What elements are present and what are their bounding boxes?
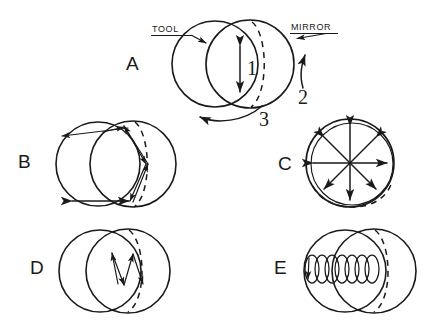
panel-a-number-3: 3	[259, 108, 269, 130]
panel-c: C	[278, 119, 394, 207]
panel-d-tool-circle	[59, 230, 141, 312]
panel-b: B	[18, 121, 176, 207]
panel-d-w-seg-3	[124, 254, 133, 285]
panel-b-letter: B	[18, 151, 31, 172]
diagram-svg: A TOOL MIRROR 1 2 3	[0, 0, 448, 332]
panel-a-mirror-label: MIRROR	[291, 22, 331, 32]
panel-a-mirror-rotation-arrow	[301, 55, 305, 88]
figure-canvas: A TOOL MIRROR 1 2 3	[0, 0, 448, 332]
panel-a-letter: A	[126, 53, 139, 74]
panel-e-letter: E	[274, 257, 287, 278]
panel-a-number-2: 2	[298, 86, 308, 108]
panel-e-helix-arrow	[308, 258, 309, 279]
panel-e-helix	[305, 255, 379, 283]
panel-a-tool-leader	[192, 36, 206, 44]
panel-d: D	[30, 229, 170, 313]
panel-a: A TOOL MIRROR 1 2 3	[126, 20, 338, 130]
panel-b-zigzag-seg-3	[124, 126, 146, 164]
panel-b-zigzag-seg-4	[130, 164, 146, 201]
panel-a-tool-label: TOOL	[152, 24, 179, 34]
panel-d-w-seg-2	[112, 253, 124, 285]
panel-a-tool-circle	[172, 21, 258, 107]
panel-d-w-seg-1	[112, 253, 118, 284]
panel-a-mirror-leader	[297, 34, 326, 39]
panel-a-number-1: 1	[247, 57, 257, 79]
panel-e: E	[274, 229, 416, 313]
panel-d-letter: D	[30, 257, 44, 278]
panel-c-letter: C	[278, 153, 292, 174]
